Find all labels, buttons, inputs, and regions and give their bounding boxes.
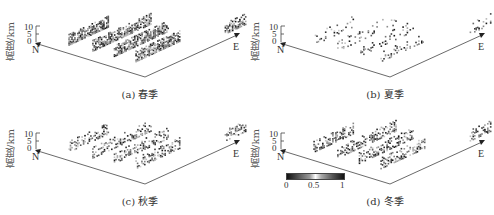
panel-summer: 高度/km 10 5 0 N E (b) 夏季 <box>245 0 492 108</box>
z-tick-0: 0 <box>272 144 277 153</box>
y-axis-label: 高度/km <box>248 22 262 61</box>
colorbar <box>286 173 345 180</box>
z-tick-0: 0 <box>272 37 277 46</box>
east-label: E <box>233 41 239 52</box>
y-axis-label: 高度/km <box>3 22 17 61</box>
panel-caption: (d) 冬季 <box>245 193 494 208</box>
colorbar-tick-0.5: 0.5 <box>308 180 319 190</box>
panel-caption: (b) 夏季 <box>245 86 494 101</box>
panel-caption: (a) 春季 <box>0 86 280 101</box>
panel-caption: (c) 秋季 <box>0 193 280 208</box>
z-tick-0: 0 <box>27 144 32 153</box>
z-tick-0: 0 <box>27 37 32 46</box>
colorbar-tick-0: 0 <box>284 180 289 190</box>
north-label: N <box>277 44 284 55</box>
north-label: N <box>32 151 39 162</box>
north-label: N <box>32 44 39 55</box>
panel-winter: 高度/km 10 5 0 N E (d) 冬季 <box>245 107 492 215</box>
y-axis-label: 高度/km <box>248 129 262 168</box>
panel-spring: 高度/km 10 5 0 N E (a) 春季 <box>0 0 247 108</box>
colorbar-tick-1: 1 <box>340 180 345 190</box>
panel-autumn: 高度/km 10 5 0 N E (c) 秋季 <box>0 107 247 215</box>
east-label: E <box>478 41 484 52</box>
y-axis-label: 高度/km <box>3 129 17 168</box>
east-label: E <box>233 148 239 159</box>
east-label: E <box>478 148 484 159</box>
north-label: N <box>277 151 284 162</box>
